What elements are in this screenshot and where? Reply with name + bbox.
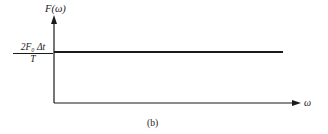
y-tick-denominator: T — [13, 54, 53, 65]
figure-caption: (b) — [147, 118, 158, 128]
figure: F(ω) 2F₀ Δt T ω (b) — [0, 0, 328, 134]
y-tick-label: 2F₀ Δt T — [13, 42, 53, 65]
y-axis-arrow-icon — [51, 15, 57, 24]
y-axis-label: F(ω) — [45, 3, 66, 14]
plot-area — [0, 0, 328, 134]
y-tick-numerator: 2F₀ Δt — [13, 42, 53, 54]
x-axis-arrow-icon — [292, 100, 301, 106]
x-axis-label: ω — [304, 97, 311, 108]
